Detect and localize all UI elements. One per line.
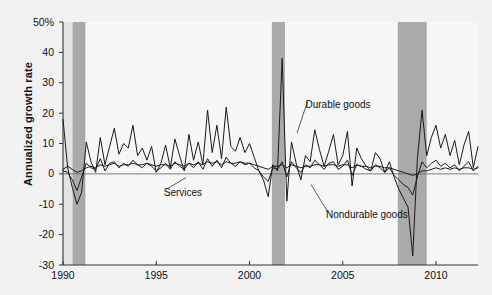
x-tick-label: 2005 bbox=[313, 270, 373, 281]
y-tick-label: 0 bbox=[14, 168, 54, 179]
x-tick-label: 1990 bbox=[33, 270, 93, 281]
y-tick-label: -10 bbox=[14, 199, 54, 210]
recession-2007-2009 bbox=[398, 22, 427, 265]
nondurable-goods-label: Nondurable goods bbox=[326, 210, 408, 220]
pre-1990-margin bbox=[63, 22, 72, 265]
y-tick-label: 20 bbox=[14, 108, 54, 119]
y-tick-label: 40 bbox=[14, 47, 54, 58]
y-tick-label: -20 bbox=[14, 229, 54, 240]
y-tick-label: 50% bbox=[14, 17, 54, 28]
chart-canvas bbox=[0, 0, 492, 295]
y-tick-label: 30 bbox=[14, 77, 54, 88]
x-tick-label: 1995 bbox=[126, 270, 186, 281]
y-tick-label: 10 bbox=[14, 138, 54, 149]
services-label: Services bbox=[164, 188, 202, 198]
recession-1990-1991 bbox=[72, 22, 85, 265]
figure-container: Annualized growth rate -30-20-1001020304… bbox=[0, 0, 492, 295]
x-tick-label: 2000 bbox=[220, 270, 280, 281]
y-tick-label: -30 bbox=[14, 260, 54, 271]
x-tick-label: 2010 bbox=[406, 270, 466, 281]
durable-goods-label: Durable goods bbox=[305, 100, 370, 110]
